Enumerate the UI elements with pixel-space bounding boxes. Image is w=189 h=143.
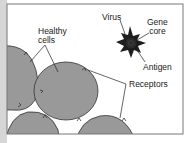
label-healthy-cells: Healthy cells xyxy=(38,27,67,45)
label-virus: Virus xyxy=(102,13,121,22)
virus-particle xyxy=(116,26,146,58)
label-receptors: Receptors xyxy=(129,80,168,89)
healthy-cell xyxy=(76,116,136,142)
label-antigen: Antigen xyxy=(143,63,172,72)
label-gene-core: Gene core xyxy=(147,18,168,36)
healthy-cell xyxy=(0,46,38,111)
healthy-cell xyxy=(34,62,98,120)
label-gene-line2: core xyxy=(147,27,168,36)
label-healthy-line2: cells xyxy=(38,36,67,45)
